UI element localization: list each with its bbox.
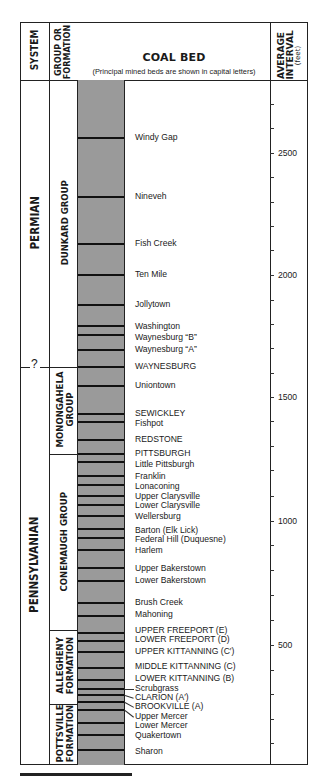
coal-bed-label: Wellersburg — [135, 512, 181, 521]
group-label-line2: GROUP — [64, 366, 74, 453]
coal-bed-line — [78, 701, 124, 703]
coal-bed-label: Fishpot — [135, 419, 163, 428]
coal-bed-label: Nineveh — [135, 192, 167, 201]
coal-bed-line — [78, 694, 124, 696]
minor-tick — [270, 446, 274, 447]
divider-interval — [270, 23, 271, 764]
coal-bed-line — [78, 366, 124, 368]
coal-bed-label: Windy Gap — [135, 133, 178, 142]
minor-tick — [270, 743, 274, 744]
coal-bed-line — [78, 651, 124, 653]
coal-bed-label: Uniontown — [135, 381, 176, 390]
group-label-line2: FORMATION — [64, 703, 74, 764]
minor-tick — [270, 202, 274, 203]
minor-tick — [270, 373, 274, 374]
interval-label: 500 — [278, 641, 292, 650]
coal-bed-line — [78, 413, 124, 415]
header-coal-bed-note: (Principal mined beds are shown in capit… — [78, 67, 270, 76]
coal-bed-label: Jollytown — [135, 300, 170, 309]
major-tick — [270, 153, 274, 154]
footer-rule — [20, 773, 132, 776]
major-tick — [270, 521, 274, 522]
minor-tick — [270, 719, 274, 720]
group-label: POTTSVILLEFORMATION — [55, 703, 74, 764]
minor-tick — [270, 421, 274, 422]
coal-bed-line — [78, 334, 124, 336]
coal-bed-line — [78, 549, 124, 551]
coal-bed-label: Quakertown — [135, 731, 181, 740]
coal-bed-label: SEWICKLEY — [135, 409, 185, 418]
minor-tick — [270, 300, 274, 301]
group-label: DUNKARD GROUP — [59, 79, 69, 366]
minor-tick — [270, 496, 274, 497]
coal-bed-label: Sharon — [135, 747, 163, 756]
group-cell: ALLEGHENYFORMATION — [49, 630, 77, 704]
interval-label: 1500 — [278, 393, 297, 402]
minor-tick — [270, 226, 274, 227]
coal-bed-label: MIDDLE KITTANNING (C) — [135, 662, 236, 671]
system-label: PERMIAN — [29, 79, 41, 366]
coal-bed-line — [78, 722, 124, 724]
group-label-line1: POTTSVILLE — [55, 703, 65, 764]
coal-bed-label: Upper Bakerstown — [135, 564, 206, 573]
coal-bed-line — [78, 137, 124, 139]
system-label: PENNSYLVANIAN — [29, 366, 41, 764]
coal-bed-label: Lower Mercer — [135, 721, 188, 730]
header-interval-unit: (feet) — [295, 32, 302, 80]
coal-bed-label: PITTSBURGH — [135, 449, 190, 458]
coal-bed-line — [78, 475, 124, 477]
minor-tick — [270, 595, 274, 596]
coal-bed-label: Federal Hill (Duquesne) — [135, 535, 226, 544]
coal-bed-line — [78, 528, 124, 530]
system-boundary-right — [40, 367, 77, 368]
coal-bed-line — [78, 484, 124, 486]
coal-bed-line — [78, 304, 124, 306]
minor-tick — [270, 177, 274, 178]
coal-bed-label: Fish Creek — [135, 239, 177, 248]
coal-bed-label: Brush Creek — [135, 598, 183, 607]
coal-bed-line — [78, 504, 124, 506]
group-label-line2: FORMATION — [64, 629, 74, 703]
group-cell: POTTSVILLEFORMATION — [49, 704, 77, 765]
group-label-line1: CONEMAUGH GROUP — [59, 454, 69, 630]
group-label-line1: DUNKARD GROUP — [59, 79, 69, 366]
minor-tick — [270, 348, 274, 349]
coal-bed-label: Washington — [135, 322, 180, 331]
coal-bed-line — [78, 567, 124, 569]
coal-bed-label: Waynesburg “B” — [135, 333, 197, 342]
minor-tick — [270, 670, 274, 671]
group-label: MONONGAHELAGROUP — [55, 366, 74, 453]
coal-bed-label: Harlem — [135, 546, 163, 555]
major-tick — [270, 645, 274, 646]
minor-tick — [270, 470, 274, 471]
coal-bed-label: WAYNESBURG — [135, 362, 196, 371]
interval-label: 2000 — [278, 271, 297, 280]
coal-bed-line — [78, 749, 124, 751]
coal-bed-line — [78, 709, 124, 711]
coal-bed-line — [78, 734, 124, 736]
group-label: ALLEGHENYFORMATION — [55, 629, 74, 703]
group-label-line1: MONONGAHELA — [55, 366, 65, 453]
minor-tick — [270, 545, 274, 546]
coal-bed-label: Mahoning — [135, 610, 173, 619]
coal-column-strip — [77, 80, 125, 765]
leader-line — [125, 689, 134, 690]
coal-bed-line — [78, 349, 124, 351]
coal-bed-line — [78, 640, 124, 642]
group-cell: DUNKARD GROUP — [49, 80, 77, 367]
coal-bed-label: LOWER KITTANNING (B) — [135, 674, 234, 683]
coal-bed-line — [78, 274, 124, 276]
coal-bed-line — [78, 461, 124, 463]
coal-bed-label: BROOKVILLE (A) — [135, 702, 203, 711]
minor-tick — [270, 620, 274, 621]
minor-tick — [270, 570, 274, 571]
minor-tick — [270, 324, 274, 325]
header-average-interval: AVERAGE INTERVAL (feet) — [277, 32, 302, 80]
minor-tick — [270, 250, 274, 251]
interval-label: 1000 — [278, 517, 297, 526]
coal-bed-line — [78, 515, 124, 517]
minor-tick — [270, 104, 274, 105]
coal-bed-line — [78, 196, 124, 198]
header-system: SYSTEM — [30, 25, 40, 75]
interval-label: 2500 — [278, 149, 297, 158]
